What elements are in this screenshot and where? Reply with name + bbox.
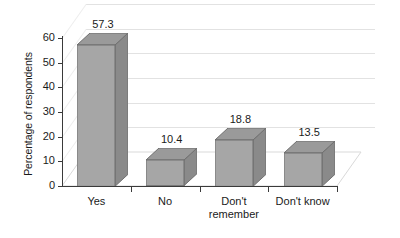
y-tick-label: 20 bbox=[29, 131, 55, 142]
value-label: 57.3 bbox=[68, 18, 138, 30]
bar bbox=[146, 148, 197, 186]
y-tick-label: 0 bbox=[29, 180, 55, 191]
y-tick-label: 10 bbox=[29, 155, 55, 166]
gridline bbox=[86, 4, 375, 5]
x-tick-mark bbox=[131, 186, 132, 192]
gridline bbox=[86, 103, 375, 104]
y-tick-mark bbox=[58, 38, 63, 39]
value-label: 10.4 bbox=[137, 133, 207, 145]
bar-front-face bbox=[77, 45, 115, 186]
category-label: Yes bbox=[62, 195, 131, 208]
y-tick-mark bbox=[58, 63, 63, 64]
y-tick-mark bbox=[58, 137, 63, 138]
bar-front-face bbox=[215, 140, 253, 186]
bar bbox=[77, 33, 128, 186]
value-label: 18.8 bbox=[205, 113, 275, 125]
bar-3d-shape bbox=[215, 128, 266, 186]
bar-chart: Percentage of respondents 0102030405060 … bbox=[0, 0, 400, 238]
x-tick-mark-end bbox=[337, 186, 338, 192]
y-tick-label: 60 bbox=[29, 32, 55, 43]
category-label: Don't remember bbox=[200, 195, 269, 220]
y-tick-mark bbox=[58, 161, 63, 162]
bar-3d-shape bbox=[284, 141, 335, 186]
bar-front-face bbox=[284, 153, 322, 186]
y-tick-mark bbox=[58, 87, 63, 88]
y-tick-mark bbox=[58, 186, 63, 187]
gridline bbox=[86, 78, 375, 79]
x-tick-mark bbox=[200, 186, 201, 192]
bar bbox=[215, 128, 266, 186]
x-tick-mark bbox=[268, 186, 269, 192]
bar-3d-shape bbox=[146, 148, 197, 186]
y-tick-label: 40 bbox=[29, 81, 55, 92]
bar bbox=[284, 141, 335, 186]
y-tick-mark bbox=[58, 112, 63, 113]
y-tick-label: 50 bbox=[29, 57, 55, 68]
value-label: 13.5 bbox=[274, 126, 344, 138]
bar-side-face bbox=[115, 33, 128, 186]
gridline bbox=[86, 53, 375, 54]
category-label: No bbox=[131, 195, 200, 208]
category-label: Don't know bbox=[268, 195, 337, 208]
y-tick-label: 30 bbox=[29, 106, 55, 117]
bar-3d-shape bbox=[77, 33, 128, 186]
bar-front-face bbox=[146, 160, 184, 186]
